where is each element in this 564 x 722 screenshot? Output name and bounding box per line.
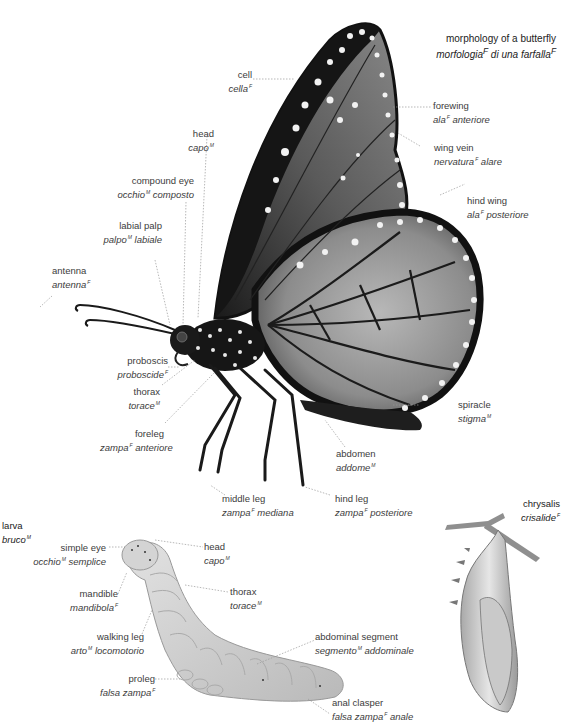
larva-heading: larva brucoM (2, 520, 31, 545)
label-abdominal-segment: abdominal segment segmentoM addominale (315, 631, 414, 656)
middle-leg-shape (240, 368, 275, 480)
label-hind-wing: hind wing alaF posteriore (467, 195, 529, 220)
label-larva-head: head capoM (204, 541, 230, 566)
label-foreleg: foreleg zampaF anteriore (100, 428, 164, 453)
label-forewing: forewing alaF anteriore (433, 100, 490, 125)
label-cell: cell cellaF (212, 69, 252, 94)
label-middle-leg: middle leg zampaF mediana (222, 493, 294, 518)
larva-head (122, 540, 158, 570)
label-proboscis: proboscis proboscideF (110, 355, 168, 380)
label-compound-eye: compound eye occhioM composto (110, 175, 194, 200)
label-antenna: antenna antennaF (52, 265, 90, 290)
label-simple-eye: simple eye occhioM semplice (30, 542, 106, 567)
label-larva-thorax: thorax toraceM (230, 586, 262, 611)
label-anal-clasper: anal clasper falsa zampaF anale (332, 697, 413, 722)
label-hind-leg: hind leg zampaF posteriore (335, 493, 412, 518)
title-it: morfologiaF di una farfallaF (436, 45, 556, 61)
label-mandible: mandible mandibolaF (70, 588, 118, 613)
title-en: morphology of a butterfly (436, 33, 556, 45)
chrysalis-heading: chrysalis crisalideF (490, 498, 560, 523)
foreleg-shape (200, 365, 235, 470)
label-thorax: thorax toraceM (120, 386, 160, 411)
label-spiracle: spiracle stigmaM (458, 399, 491, 424)
diagram-title: morphology of a butterfly morfologiaF di… (436, 33, 556, 61)
label-labial-palp: labial palp palpoM labiale (100, 220, 162, 245)
butterfly-figure (76, 24, 480, 485)
label-proleg: proleg falsa zampaF (100, 673, 155, 698)
larva-figure (122, 540, 343, 701)
label-head: head capoM (170, 128, 214, 153)
label-wing-vein: wing vein nervaturaF alare (434, 142, 502, 167)
chrysalis-figure (445, 513, 540, 712)
label-walking-leg: walking leg artoM locomotorio (70, 631, 144, 656)
label-abdomen: abdomen addomeM (336, 448, 376, 473)
